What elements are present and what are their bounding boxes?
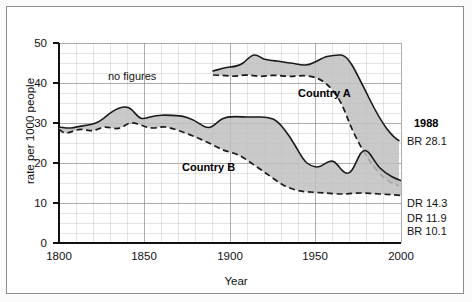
y-tick-label: 0: [13, 237, 47, 249]
country-a-dr-label: DR 14.3: [407, 197, 447, 209]
figure-canvas: 50 40 30 20 10 0 1800 1850 1900 1950 200…: [0, 0, 472, 302]
country-b-annotation: Country B: [182, 161, 235, 173]
country-b-dr-label: DR 11.9: [407, 212, 447, 224]
y-tick-label: 10: [13, 197, 47, 209]
y-tick-label: 50: [13, 37, 47, 49]
y-axis-title: rate per 1000 people: [24, 66, 36, 196]
x-axis-title: Year: [206, 275, 266, 287]
year-label-1988: 1988: [414, 117, 438, 129]
no-figures-annotation: no figures: [108, 70, 156, 82]
x-tick-label: 1850: [114, 250, 174, 262]
axis-ticks: [53, 43, 59, 243]
x-tick-label: 1800: [29, 250, 89, 262]
x-tick-label: 2000: [371, 250, 431, 262]
x-tick-label: 1950: [285, 250, 345, 262]
country-a-br-label: BR 28.1: [407, 135, 447, 147]
country-a-annotation: Country A: [298, 87, 351, 99]
x-tick-label: 1900: [200, 250, 260, 262]
country-b-br-label: BR 10.1: [407, 225, 447, 237]
figure-border: 50 40 30 20 10 0 1800 1850 1900 1950 200…: [6, 6, 464, 294]
